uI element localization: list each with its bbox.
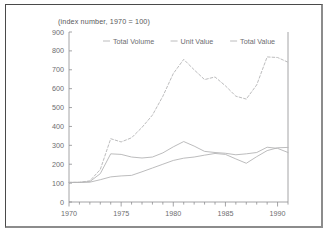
y-tick-label: 300 — [52, 141, 64, 150]
chart-plot: 0100200300400500600700800900197019751980… — [6, 5, 324, 229]
legend-label-unit-value: Unit Value — [181, 37, 214, 46]
y-tick-label: 900 — [52, 28, 64, 37]
y-tick-label: 0 — [60, 198, 64, 207]
series-line-unit-value — [69, 142, 288, 183]
x-tick-label: 1975 — [113, 209, 129, 218]
series-line-total-value — [69, 57, 288, 182]
x-tick-label: 1970 — [61, 209, 77, 218]
chart-container: (index number, 1970 = 100) 0100200300400… — [6, 5, 324, 229]
y-tick-label: 700 — [52, 65, 64, 74]
y-tick-label: 200 — [52, 160, 64, 169]
x-tick-label: 1985 — [217, 209, 233, 218]
x-tick-label: 1980 — [165, 209, 181, 218]
y-tick-label: 400 — [52, 122, 64, 131]
y-tick-label: 100 — [52, 179, 64, 188]
y-tick-label: 500 — [52, 103, 64, 112]
x-tick-label: 1990 — [270, 209, 286, 218]
y-tick-label: 800 — [52, 46, 64, 55]
legend-label-total-volume: Total Volume — [113, 37, 154, 46]
figure-frame: (index number, 1970 = 100) 0100200300400… — [5, 4, 323, 228]
legend-label-total-value: Total Value — [240, 37, 275, 46]
y-tick-label: 600 — [52, 84, 64, 93]
